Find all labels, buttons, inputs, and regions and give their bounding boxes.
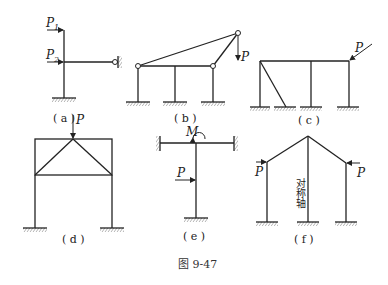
figure-caption: 图 9-47 <box>178 258 217 271</box>
load-p: P <box>176 166 186 180</box>
figure-9-47: P1 P2 ( a ) P ( b ) P ( c ) <box>0 0 388 285</box>
load-p2: P2 <box>45 48 59 64</box>
caption-b: ( b ) <box>174 112 197 125</box>
structures-diagram: P1 P2 ( a ) P ( b ) P ( c ) <box>0 0 388 285</box>
panel-d: P ( d ) <box>23 113 124 246</box>
panel-f: P P 对称轴 ( f ) <box>254 136 366 246</box>
load-p-right: P <box>356 166 366 180</box>
panel-c: P ( c ) <box>250 41 372 127</box>
load-p-left: P <box>254 165 264 179</box>
caption-a: ( a ) <box>53 112 75 125</box>
caption-d: ( d ) <box>62 233 85 246</box>
load-p: P <box>354 41 364 55</box>
panel-a: P1 P2 ( a ) <box>45 16 122 125</box>
caption-f: ( f ) <box>294 233 314 246</box>
panel-b: P ( b ) <box>126 31 250 126</box>
caption-e: ( e ) <box>183 230 205 243</box>
caption-c: ( c ) <box>298 114 320 127</box>
load-p1: P1 <box>45 16 59 32</box>
load-p: P <box>75 113 85 127</box>
load-p: P <box>240 50 250 64</box>
panel-e: M P ( e ) <box>156 125 238 243</box>
symmetry-axis-label: 对称轴 <box>295 177 306 209</box>
moment-m: M <box>185 125 199 139</box>
